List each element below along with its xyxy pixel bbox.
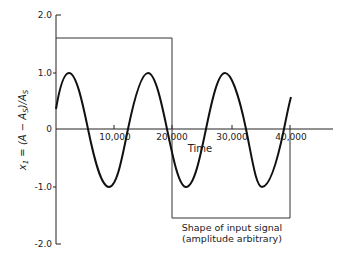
y-tick-label-2: 2.0 — [38, 10, 53, 20]
y-axis-title: x1 = (A − AS)/AS — [17, 89, 30, 171]
input-signal-pulse — [56, 38, 290, 218]
y-tick-label-m1: -1.0 — [34, 182, 52, 192]
y-tick-label-1: 1.0 — [38, 68, 53, 78]
chart: 2.0 1.0 0 -1.0 -2.0 10,000 20,000 30,000… — [0, 0, 362, 261]
y-label-div: )/A — [17, 94, 28, 109]
y-label-subS2: S — [22, 89, 30, 94]
x-tick-label-30000: 30,000 — [216, 132, 248, 142]
y-tick-label-m2: -2.0 — [34, 239, 52, 249]
annotation-line-1: Shape of input signal — [182, 222, 283, 233]
response-curve — [56, 73, 291, 187]
y-label-rest: = (A − A — [17, 113, 28, 160]
y-tick-label-0: 0 — [46, 124, 52, 134]
x-axis-title: Time — [187, 143, 212, 154]
x-tick-label-40000: 40,000 — [275, 132, 307, 142]
annotation-line-2: (amplitude arbitrary) — [182, 233, 282, 244]
